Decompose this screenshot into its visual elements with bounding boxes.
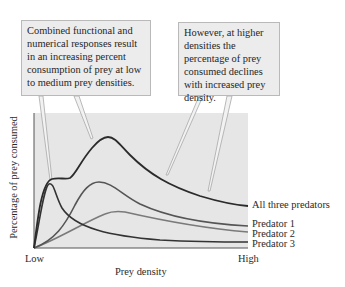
- legend-predator-3: Predator 3: [252, 238, 295, 249]
- legend-all-three-predators: All three predators: [252, 199, 330, 210]
- plot-area: [34, 113, 248, 248]
- callout-left: Combined functional and numerical respon…: [21, 20, 151, 96]
- callout-right: However, at higher densities the percent…: [178, 22, 280, 96]
- x-tick-high: High: [238, 253, 259, 264]
- callout-right-text: However, at higher densities the percent…: [184, 26, 274, 104]
- x-axis-label: Prey density: [115, 266, 167, 277]
- x-tick-low: Low: [25, 253, 44, 264]
- callout-left-text: Combined functional and numerical respon…: [27, 24, 145, 89]
- y-axis-label: Percentage of prey consumed: [8, 108, 19, 248]
